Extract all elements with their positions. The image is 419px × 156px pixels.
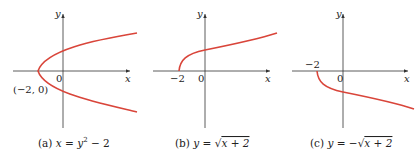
x-axis-label: x [265, 73, 271, 84]
caption-a: (a) x = y2 − 2 [38, 136, 110, 149]
curve-neg-sqrt [317, 71, 414, 109]
curve-parabola [38, 33, 137, 112]
caption-c: (c) y = −√x + 2 [310, 137, 393, 149]
y-axis-label: y [54, 8, 61, 19]
x-axis-label: x [404, 73, 410, 84]
origin-label: 0 [337, 73, 343, 84]
curve-sqrt [179, 33, 277, 71]
y-axis-label: y [196, 8, 203, 19]
x-axis-label: x [125, 73, 131, 84]
caption-b: (b) y = √x + 2 [175, 137, 250, 149]
panel-a: y x 0 (−2, 0) (a) x = y2 − 2 [13, 8, 137, 149]
panel-c: y x 0 −2 (c) y = −√x + 2 [292, 8, 414, 149]
tick-label-neg2: −2 [170, 73, 185, 84]
origin-label: 0 [56, 73, 62, 84]
y-axis-label: y [335, 8, 342, 19]
figure: y x 0 (−2, 0) (a) x = y2 − 2 y x 0 −2 (b… [0, 0, 419, 156]
panel-b: y x 0 −2 (b) y = √x + 2 [153, 8, 277, 149]
vertex-label: (−2, 0) [13, 84, 48, 95]
origin-label: 0 [198, 73, 204, 84]
tick-label-neg2: −2 [305, 59, 320, 70]
